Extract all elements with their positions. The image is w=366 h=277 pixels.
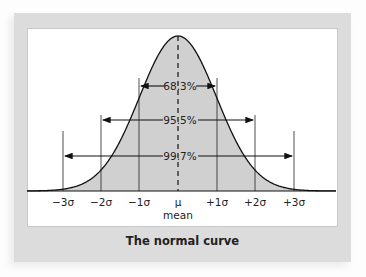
tick-plus3: +3σ [283,196,305,208]
tick-minus1: −1σ [128,196,150,208]
label-95: 95.5% [163,114,196,126]
tick-plus1: +1σ [206,196,228,208]
tick-minus3: −3σ [52,196,74,208]
label-99: 99.7% [163,150,196,162]
tick-minus2: −2σ [90,196,112,208]
label-68: 68.3% [163,80,196,92]
tick-mu: μ [175,196,182,208]
figure-caption: The normal curve [14,234,351,248]
tick-plus2: +2σ [244,196,266,208]
mean-label: mean [163,209,193,221]
